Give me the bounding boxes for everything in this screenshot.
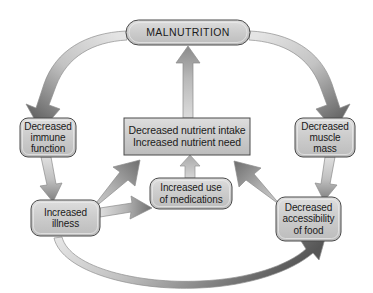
- edge-illness-to-access: [54, 235, 326, 288]
- node-access[interactable]: [276, 197, 341, 241]
- edge-malnutrition-to-immune: [26, 31, 127, 131]
- node-illness[interactable]: [31, 200, 100, 236]
- node-malnutrition[interactable]: [126, 20, 250, 45]
- node-medications[interactable]: [150, 178, 232, 209]
- diagram-canvas: MALNUTRITION Decreased nutrient intake I…: [0, 0, 373, 293]
- diagram-graphics: [0, 0, 373, 293]
- edge-medications-to-central: [180, 155, 200, 178]
- edge-malnutrition-to-muscle: [249, 31, 350, 131]
- edge-central-to-malnutrition: [176, 46, 200, 118]
- node-immune[interactable]: [20, 118, 76, 157]
- edge-immune-to-illness: [40, 157, 62, 202]
- edge-illness-to-medications: [100, 196, 152, 219]
- node-central[interactable]: [124, 118, 250, 155]
- node-muscle[interactable]: [295, 118, 355, 157]
- edge-muscle-to-access: [315, 157, 337, 201]
